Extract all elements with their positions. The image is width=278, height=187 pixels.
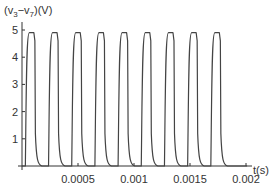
axis-labels: (v3−v7)(V) t(s): [4, 4, 269, 176]
x-axis-label: t(s): [253, 164, 269, 176]
x-tick-label: 0.0005: [61, 173, 95, 185]
line-chart: 123450.00050.0010.00150.002 (v3−v7)(V) t…: [0, 0, 278, 187]
x-tick-label: 0.0015: [173, 173, 207, 185]
y-tick-label: 3: [12, 78, 18, 90]
y-axis-label: (v3−v7)(V): [4, 4, 52, 19]
x-tick-label: 0.001: [120, 173, 148, 185]
y-tick-label: 5: [12, 24, 18, 36]
y-tick-label: 4: [12, 51, 18, 63]
voltage-trace: [22, 33, 247, 166]
y-tick-label: 2: [12, 106, 18, 118]
y-tick-label: 1: [12, 133, 18, 145]
